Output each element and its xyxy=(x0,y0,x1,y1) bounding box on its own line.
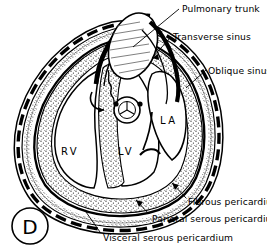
label-right-ventricle: RV xyxy=(61,146,79,157)
label-oblique-sinus: Oblique sinus xyxy=(208,65,267,76)
panel-letter: D xyxy=(22,215,37,239)
panel-letter-marker: D xyxy=(12,208,48,244)
label-pulmonary-trunk: Pulmonary trunk xyxy=(182,3,260,14)
label-left-ventricle: LV xyxy=(118,146,134,157)
anatomical-illustration: Pulmonary trunk Transverse sinus Oblique… xyxy=(0,0,267,250)
label-transverse-sinus: Transverse sinus xyxy=(172,31,251,42)
pericardium-diagram-figure: Pulmonary trunk Transverse sinus Oblique… xyxy=(0,0,267,250)
label-visceral-serous-pericardium: Visceral serous pericardium xyxy=(103,232,233,243)
label-parietal-serous-pericardium: Parietal serous pericardium xyxy=(152,213,267,224)
label-fibrous-pericardium: Fibrous pericardium xyxy=(188,196,267,207)
label-left-atrium: LA xyxy=(160,115,177,126)
